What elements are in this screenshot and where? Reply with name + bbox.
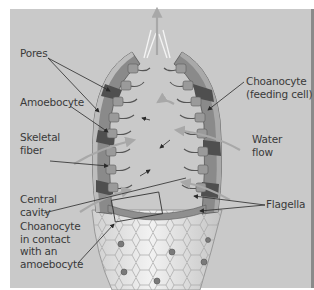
label-choanocyte-contact: Choanocyte in contact with an amoebocyte [20, 220, 83, 270]
inner-arrows [140, 118, 170, 176]
label-amoebocyte: Amoebocyte [20, 96, 84, 109]
label-skeletal-fiber: Skeletal fiber [20, 131, 60, 156]
label-flagella: Flagella [266, 198, 305, 211]
label-central-cavity: Central cavity [20, 193, 57, 218]
label-choanocyte-feeding: Choanocyte (feeding cell) [246, 75, 312, 100]
sponge-base [92, 210, 222, 290]
label-water-flow: Water flow [252, 133, 282, 158]
label-pores: Pores [20, 47, 47, 60]
